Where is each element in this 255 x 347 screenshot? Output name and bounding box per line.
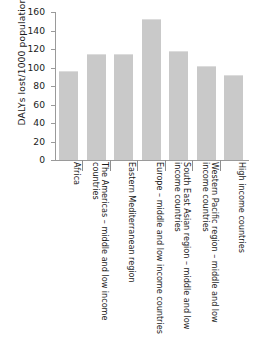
y-axis-tick: 140	[51, 31, 55, 32]
y-axis-tick: 0	[51, 160, 55, 161]
y-axis-tick-label: 140	[27, 25, 45, 36]
x-axis-category-label: Africa	[57, 162, 81, 342]
x-axis-category-label: The Americas – middle and low income cou…	[85, 162, 109, 342]
y-axis-title: DALYs lost/1000 population	[16, 0, 27, 137]
bar	[224, 75, 243, 160]
y-axis-tick: 100	[51, 68, 55, 69]
x-axis-category-label: Eastern Mediterranean region	[112, 162, 136, 342]
x-axis-labels: AfricaThe Americas – middle and low inco…	[55, 162, 251, 347]
y-axis-tick: 120	[51, 49, 55, 50]
bar	[169, 51, 188, 160]
x-axis-category-label: High income countries	[222, 162, 246, 342]
y-axis-tick: 40	[51, 123, 55, 124]
y-axis-line	[55, 12, 56, 160]
y-axis-tick: 80	[51, 86, 55, 87]
y-axis-tick: 20	[51, 142, 55, 143]
y-axis-tick: 60	[51, 105, 55, 106]
y-axis-tick-label: 80	[33, 80, 45, 91]
y-axis-tick-label: 60	[33, 99, 45, 110]
y-axis-tick-label: 160	[27, 6, 45, 17]
y-axis-tick-label: 20	[33, 136, 45, 147]
bar	[142, 19, 161, 160]
bar	[87, 54, 106, 160]
bar	[197, 66, 216, 160]
bar	[59, 71, 78, 160]
x-axis-category-label: South East Asian region – middle and low…	[167, 162, 191, 342]
x-axis-category-label: Europe – middle and low income countries	[140, 162, 164, 342]
y-axis-tick-label: 0	[39, 154, 45, 165]
y-axis-tick: 160	[51, 12, 55, 13]
bar	[114, 54, 133, 160]
y-axis-tick-label: 100	[27, 62, 45, 73]
y-axis-tick-label: 120	[27, 43, 45, 54]
y-axis-tick-label: 40	[33, 117, 45, 128]
plot-area: 020406080100120140160	[55, 10, 250, 162]
bar-chart-figure: DALYs lost/1000 population 0204060801001…	[0, 0, 255, 347]
x-axis-category-label: Western Pacific region – middle and low …	[195, 162, 219, 342]
